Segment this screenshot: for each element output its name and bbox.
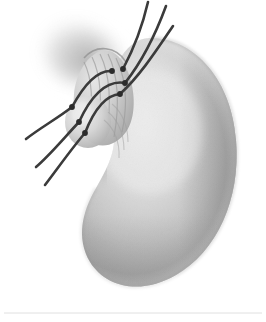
- figure-canvas: Grayscale medical illustration of a kidn…: [0, 0, 266, 322]
- suture-knot-6: [76, 119, 82, 125]
- suture-knot-7: [82, 130, 88, 136]
- suture-knot-3: [122, 80, 128, 86]
- suture-knot-4: [117, 91, 123, 97]
- suture-knot-5: [69, 104, 75, 110]
- suture-knot-1: [120, 66, 126, 72]
- illustration-svg: [0, 0, 266, 322]
- suture-knot-2: [109, 68, 115, 74]
